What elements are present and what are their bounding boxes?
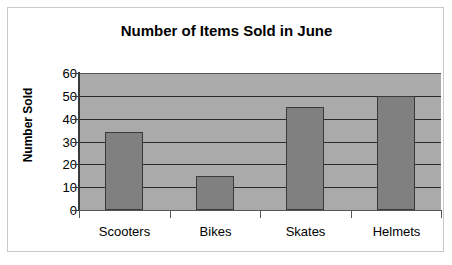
plot-area xyxy=(79,73,441,210)
y-axis-tick-labels: 6050403020100 xyxy=(49,66,77,210)
x-tick-label-helmets: Helmets xyxy=(351,224,442,239)
x-axis-tick xyxy=(170,211,171,218)
x-tick-label-skates: Skates xyxy=(260,224,351,239)
y-axis-tick xyxy=(72,96,79,97)
x-axis-tick xyxy=(260,211,261,218)
chart-title: Number of Items Sold in June xyxy=(8,22,445,39)
bar-skates xyxy=(286,107,324,210)
bar-bikes xyxy=(196,176,234,210)
x-axis-tick xyxy=(79,211,80,218)
y-axis-title: Number Sold xyxy=(21,70,35,180)
x-tick-label-scooters: Scooters xyxy=(79,224,170,239)
chart-figure: Number of Items Sold in June Number Sold… xyxy=(7,7,444,252)
y-axis-tick xyxy=(72,164,79,165)
y-axis-tick xyxy=(72,73,79,74)
bar-helmets xyxy=(377,96,415,210)
y-axis-tick xyxy=(72,119,79,120)
y-axis-tick xyxy=(72,187,79,188)
bar-scooters xyxy=(105,132,143,210)
x-tick-label-bikes: Bikes xyxy=(170,224,261,239)
y-axis-tick xyxy=(72,142,79,143)
y-axis-tick xyxy=(72,210,79,211)
x-axis-tick xyxy=(441,211,442,218)
x-axis-tick xyxy=(351,211,352,218)
x-axis-tick-labels: ScootersBikesSkatesHelmets xyxy=(79,224,441,244)
